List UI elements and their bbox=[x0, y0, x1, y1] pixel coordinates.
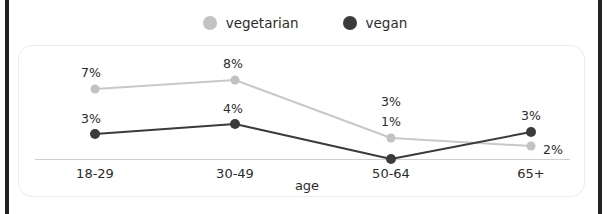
series-line-vegetarian bbox=[95, 80, 531, 146]
x-tick-label-50-64: 50-64 bbox=[372, 166, 410, 181]
x-tick-label-30-49: 30-49 bbox=[216, 166, 254, 181]
value-label-vegan-18-29: 3% bbox=[81, 111, 101, 126]
data-point-vegetarian-65plus[interactable] bbox=[527, 142, 536, 151]
legend-swatch-vegan-icon bbox=[343, 16, 357, 30]
legend-label-vegetarian: vegetarian bbox=[226, 15, 299, 31]
data-point-vegetarian-18-29[interactable] bbox=[91, 85, 100, 94]
data-point-vegan-30-49[interactable] bbox=[230, 119, 240, 129]
legend-item-vegetarian[interactable]: vegetarian bbox=[203, 15, 299, 31]
value-label-vegetarian-18-29: 7% bbox=[81, 65, 101, 80]
chart-legend: vegetarian vegan bbox=[0, 10, 610, 36]
value-label-vegetarian-50-64: 3% bbox=[381, 94, 401, 109]
value-label-vegetarian-65plus: 2% bbox=[543, 142, 563, 157]
value-label-vegan-65plus: 3% bbox=[521, 108, 541, 123]
legend-swatch-vegetarian-icon bbox=[203, 16, 217, 30]
plot-area: 7% 8% 3% 2% 3% 4% 1% 3% 18-29 30-49 50-6… bbox=[19, 46, 586, 198]
chart-screenshot: vegetarian vegan bbox=[0, 0, 610, 214]
x-axis-title: age bbox=[295, 178, 319, 193]
legend-label-vegan: vegan bbox=[366, 15, 408, 31]
value-label-vegetarian-30-49: 8% bbox=[223, 56, 243, 71]
data-point-vegetarian-50-64[interactable] bbox=[387, 134, 396, 143]
legend-item-vegan[interactable]: vegan bbox=[343, 15, 408, 31]
data-point-vegan-65plus[interactable] bbox=[526, 127, 536, 137]
x-axis-line bbox=[35, 159, 570, 160]
data-point-vegetarian-30-49[interactable] bbox=[231, 76, 240, 85]
value-label-vegan-30-49: 4% bbox=[223, 101, 243, 116]
data-point-vegan-50-64[interactable] bbox=[386, 154, 396, 164]
value-label-vegan-50-64: 1% bbox=[381, 114, 401, 129]
x-tick-label-65plus: 65+ bbox=[517, 166, 544, 181]
data-point-vegan-18-29[interactable] bbox=[90, 129, 100, 139]
x-tick-label-18-29: 18-29 bbox=[76, 166, 114, 181]
chart-card: 7% 8% 3% 2% 3% 4% 1% 3% 18-29 30-49 50-6… bbox=[18, 45, 585, 197]
